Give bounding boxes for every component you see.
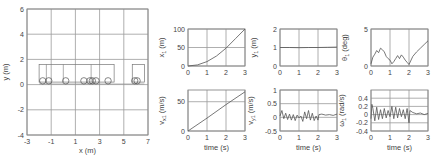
- y-tick-label: -0.4: [356, 128, 368, 135]
- plot-theta1: 012350θ1(deg): [340, 26, 430, 77]
- wheel-circle: [93, 78, 99, 84]
- y-axis-label: y (m): [1, 63, 10, 81]
- x-axis-label: time (s): [204, 143, 230, 152]
- x-tick-label: 2: [224, 134, 228, 141]
- x-axis-label: time (s): [296, 143, 322, 152]
- y-tick-label: -0.2: [356, 119, 368, 126]
- plot-vx1: 0123500vx1(m/s)time (s): [157, 90, 247, 152]
- data-line: [280, 111, 337, 122]
- axes-frame: [371, 29, 428, 66]
- axes-frame: [27, 9, 148, 135]
- y-tick-label: 0: [273, 63, 277, 70]
- wheel-circle: [40, 78, 46, 84]
- x-tick-label: 1: [297, 69, 301, 76]
- x-tick-label: 1: [205, 134, 209, 141]
- x-tick-label: 3: [243, 134, 247, 141]
- x-tick-label: 3: [335, 134, 339, 141]
- x-axis-label: time (s): [387, 143, 413, 152]
- y-tick-label: -4: [18, 132, 24, 139]
- y-tick-label: 2: [273, 26, 277, 33]
- data-line: [371, 104, 428, 123]
- y-tick-label: 0: [273, 114, 277, 121]
- x-tick-label: 3: [243, 69, 247, 76]
- x-tick-label: 1: [388, 134, 392, 141]
- x-tick-label: 0: [278, 134, 282, 141]
- x-tick-label: 2: [224, 69, 228, 76]
- x-tick-label: 2: [407, 69, 411, 76]
- data-line: [371, 41, 428, 65]
- data-line: [188, 92, 245, 131]
- y-tick-label: 0.2: [358, 103, 368, 110]
- plot-omega1: 01230.40.20-0.2-0.4ω1(rad/s)time (s): [337, 90, 430, 152]
- x-tick-label: 0: [369, 134, 373, 141]
- y-tick-label: 1: [273, 87, 277, 94]
- y-tick-label: 100: [173, 26, 185, 33]
- y-tick-label: 6: [20, 6, 24, 13]
- x-tick-label: 0: [278, 69, 282, 76]
- wheel-circle: [81, 78, 87, 84]
- x-tick-label: 5: [122, 138, 126, 145]
- y-tick-label: -0.5: [265, 128, 277, 135]
- x-tick-label: 1: [205, 69, 209, 76]
- x-tick-label: 2: [407, 134, 411, 141]
- x-tick-label: 7: [146, 138, 150, 145]
- data-line: [280, 47, 337, 48]
- figure-canvas: -3-113576420-2-4x (m)y (m)0123100500x1(m…: [0, 0, 436, 161]
- y-tick-label: 2: [20, 56, 24, 63]
- y-tick-label: 4: [20, 31, 24, 38]
- y-tick-label: 0: [181, 63, 185, 70]
- y-axis-label: ω1(rad/s): [337, 94, 347, 127]
- y-tick-label: 50: [177, 98, 185, 105]
- y-tick-label: 0: [20, 81, 24, 88]
- plot-x1: 0123100500x1(m): [157, 26, 247, 77]
- x-tick-label: -3: [24, 138, 30, 145]
- x-axis-label: x (m): [79, 146, 97, 155]
- plot-y1: 0123210y1(m): [249, 26, 339, 77]
- x-tick-label: 3: [426, 134, 430, 141]
- y-axis-label: θ1(deg): [340, 34, 350, 61]
- y-tick-label: 0.4: [358, 95, 368, 102]
- plot-trajectory: -3-113576420-2-4x (m)y (m): [1, 6, 150, 156]
- x-tick-label: 0: [186, 134, 190, 141]
- y-axis-label: x1(m): [157, 37, 167, 58]
- y-tick-label: 0: [364, 63, 368, 70]
- x-tick-label: 3: [98, 138, 102, 145]
- x-tick-label: 2: [316, 69, 320, 76]
- x-tick-label: 3: [426, 69, 430, 76]
- y-axis-label: vx1(m/s): [157, 96, 167, 125]
- x-tick-label: 1: [388, 69, 392, 76]
- x-tick-label: 0: [369, 69, 373, 76]
- y-tick-label: -2: [18, 106, 24, 113]
- y-tick-label: 0: [181, 128, 185, 135]
- y-axis-label: y1(m): [249, 37, 259, 58]
- x-tick-label: 2: [316, 134, 320, 141]
- x-tick-label: 1: [73, 138, 77, 145]
- x-tick-label: 1: [297, 134, 301, 141]
- x-tick-label: -1: [48, 138, 54, 145]
- y-tick-label: 1: [273, 44, 277, 51]
- y-tick-label: 0: [364, 111, 368, 118]
- y-axis-label: vy1(m/s): [246, 96, 256, 125]
- wheel-circle: [105, 78, 111, 84]
- y-tick-label: 5: [364, 26, 368, 33]
- plot-vy1: 012310.50-0.5vy1(m/s)time (s): [246, 87, 339, 153]
- x-tick-label: 3: [335, 69, 339, 76]
- vehicle-body: [39, 64, 114, 82]
- y-tick-label: 0.5: [267, 100, 277, 107]
- y-tick-label: 50: [177, 44, 185, 51]
- x-tick-label: 0: [186, 69, 190, 76]
